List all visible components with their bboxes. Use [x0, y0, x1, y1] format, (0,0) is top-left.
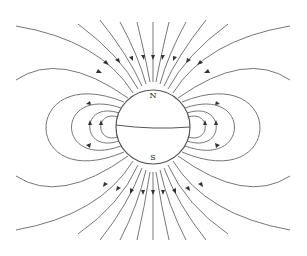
magnet-sphere: N S	[116, 90, 190, 164]
magnetic-field-diagram: N S	[0, 0, 307, 256]
south-pole-label: S	[150, 153, 155, 162]
north-pole-label: N	[150, 91, 157, 100]
